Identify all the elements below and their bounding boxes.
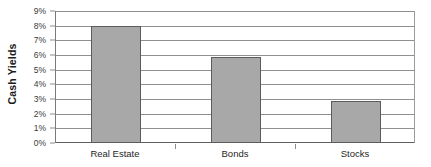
y-axis-tick-mark [50,128,55,129]
y-axis-tick-label: 9% [34,7,46,16]
x-axis-category-label: Real Estate [90,148,139,159]
y-axis-tick-mark [50,69,55,70]
y-axis-tick-mark [50,113,55,114]
x-axis-category-label: Stocks [341,148,370,159]
y-axis-tick-mark [50,84,55,85]
y-axis-tick-label: 8% [34,21,46,30]
bar [91,26,141,143]
y-axis-tick-label: 7% [34,36,46,45]
bar [211,57,261,143]
y-axis-tick-labels: 0%1%2%3%4%5%6%7%8%9% [24,11,50,143]
x-axis-tick-mark [175,144,176,149]
y-axis-tick-label: 2% [34,109,46,118]
x-axis-category-labels: Real EstateBondsStocks [55,148,415,166]
y-axis-tick-mark [50,143,55,144]
x-axis-tick-mark [295,144,296,149]
y-axis-tick-label: 6% [34,51,46,60]
y-axis-title-label: Cash Yields [6,43,18,104]
plot-area [55,11,415,143]
x-axis-category-label: Bonds [222,148,249,159]
y-axis-tick-label: 4% [34,80,46,89]
y-axis-tick-label: 1% [34,124,46,133]
y-axis-tick-mark [50,55,55,56]
bars [56,11,414,143]
y-axis-tick-mark [50,40,55,41]
bar [331,101,381,143]
bar-chart: Cash Yields 0%1%2%3%4%5%6%7%8%9% Real Es… [0,0,431,167]
y-axis-tick-mark [50,99,55,100]
y-axis-tick-mark [50,25,55,26]
y-axis-tick-label: 0% [34,139,46,148]
y-axis-tick-label: 3% [34,95,46,104]
y-axis-title: Cash Yields [0,0,24,148]
y-axis-tick-mark [50,11,55,12]
y-axis-tick-label: 5% [34,65,46,74]
